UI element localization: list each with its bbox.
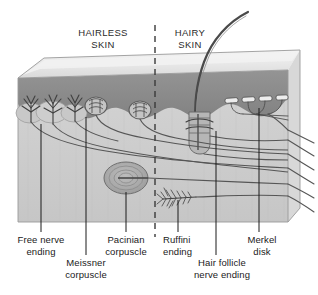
region-labels: HAIRLESS SKIN HAIRY SKIN: [78, 27, 205, 50]
label-merkel-disk-line1: Merkel: [247, 234, 276, 245]
label-hair-follicle-nerve-ending-line1: Hair follicle: [198, 257, 246, 268]
skin-receptors-figure: HAIRLESS SKIN HAIRY SKIN Free nerve endi…: [0, 0, 318, 295]
label-pacinian-corpuscle-line2: corpuscle: [105, 246, 147, 257]
region-label-hairless-skin-line1: HAIRLESS: [78, 27, 127, 38]
label-free-nerve-ending-line1: Free nerve: [18, 234, 65, 245]
label-merkel-disk-line2: disk: [253, 246, 270, 257]
label-ruffini-ending-line2: ending: [163, 246, 192, 257]
merkel-disk-4: [276, 95, 288, 100]
skin-diagram-svg: HAIRLESS SKIN HAIRY SKIN Free nerve endi…: [0, 0, 318, 295]
label-meissner-corpuscle-line2: corpuscle: [65, 269, 107, 280]
label-ruffini-ending-line1: Ruffini: [163, 234, 190, 245]
meissner-corpuscle-2: [129, 101, 151, 119]
region-label-hairy-skin-line1: HAIRY: [175, 27, 206, 38]
label-meissner-corpuscle-line1: Meissner: [66, 257, 105, 268]
pacinian-corpuscle-group: [104, 162, 148, 194]
merkel-disk-1: [225, 98, 238, 104]
label-hair-follicle-nerve-ending-line2: nerve ending: [194, 269, 250, 280]
merkel-disk-3: [259, 96, 272, 101]
label-free-nerve-ending-line2: ending: [26, 246, 55, 257]
skin-right-face: [288, 50, 300, 222]
merkel-disk-2: [242, 97, 255, 103]
label-pacinian-corpuscle-line1: Pacinian: [107, 234, 144, 245]
structure-labels: Free nerve ending Meissner corpuscle Pac…: [18, 234, 277, 280]
region-label-hairless-skin-line2: SKIN: [91, 39, 114, 50]
meissner-corpuscle-1: [85, 97, 107, 115]
region-label-hairy-skin-line2: SKIN: [178, 39, 201, 50]
